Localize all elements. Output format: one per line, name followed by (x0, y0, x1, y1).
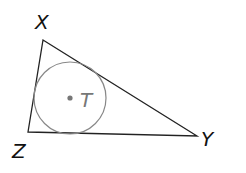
vertex-label-z: Z (11, 139, 27, 163)
triangle-xyz (28, 40, 197, 136)
incenter-point (67, 95, 72, 100)
triangle-incircle-diagram: X Y Z T (0, 0, 246, 173)
vertex-label-x: X (34, 10, 50, 34)
incenter-label-t: T (80, 88, 94, 112)
vertex-label-y: Y (201, 127, 215, 151)
